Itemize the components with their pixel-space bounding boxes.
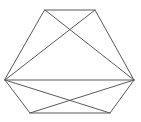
figure-background (0, 0, 141, 122)
hexagon-figure (0, 0, 141, 122)
